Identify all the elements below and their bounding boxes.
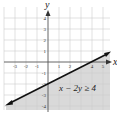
- svg-text:-1: -1: [42, 71, 47, 76]
- svg-text:-3: -3: [13, 64, 18, 69]
- x-axis-label: x: [112, 56, 117, 67]
- svg-text:1: 1: [44, 49, 47, 54]
- x-tick-labels: -3 -2 -1 1 2 4 5: [13, 64, 105, 69]
- y-axis-arrow-icon: [46, 10, 51, 16]
- svg-text:-2: -2: [24, 64, 29, 69]
- inequality-graph: x y -3 -2 -1 1 2 4 5 4 3 2 1 -1 -2 -3 -4…: [0, 0, 117, 113]
- svg-text:4: 4: [44, 16, 47, 21]
- svg-text:2: 2: [69, 64, 72, 69]
- svg-text:-3: -3: [42, 93, 47, 98]
- svg-text:-4: -4: [42, 104, 47, 109]
- inequality-label: x − 2y ≥ 4: [58, 83, 97, 93]
- svg-text:-1: -1: [35, 64, 40, 69]
- svg-text:1: 1: [58, 64, 61, 69]
- svg-text:3: 3: [44, 27, 47, 32]
- svg-text:2: 2: [44, 38, 47, 43]
- y-axis-label: y: [44, 0, 50, 10]
- y-tick-labels: 4 3 2 1 -1 -2 -3 -4: [42, 16, 47, 109]
